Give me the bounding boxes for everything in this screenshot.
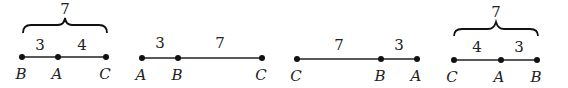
brace-icon bbox=[454, 22, 538, 36]
total-length-label: 7 bbox=[491, 3, 501, 21]
segment-length-label: 3 bbox=[514, 38, 524, 56]
segment-length-label: 3 bbox=[35, 36, 45, 54]
point-dot bbox=[19, 54, 25, 60]
brace-icon bbox=[23, 18, 107, 33]
point-dot bbox=[534, 57, 540, 63]
segment-length-label: 4 bbox=[77, 36, 87, 54]
panel-4: 7 4 3 C A B bbox=[446, 3, 541, 86]
point-dot bbox=[103, 54, 109, 60]
segment-length-label: 3 bbox=[394, 36, 404, 54]
point-label: C bbox=[99, 65, 111, 83]
point-dot bbox=[294, 56, 300, 62]
point-dot bbox=[414, 56, 420, 62]
point-dot bbox=[451, 57, 457, 63]
panel-2: 3 7 A B C bbox=[134, 34, 268, 84]
total-length-label: 7 bbox=[60, 0, 70, 18]
point-dot bbox=[55, 54, 61, 60]
number-line-diagram: 7 3 4 B A C 3 7 A B C 7 3 C B A 7 4 bbox=[0, 0, 568, 88]
point-label: B bbox=[529, 68, 541, 86]
point-dot bbox=[139, 55, 145, 61]
panel-1: 7 3 4 B A C bbox=[14, 0, 111, 83]
point-label: A bbox=[409, 67, 422, 85]
point-label: B bbox=[170, 66, 182, 84]
segment-length-label: 7 bbox=[215, 34, 225, 52]
point-dot bbox=[378, 56, 384, 62]
point-label: C bbox=[446, 68, 458, 86]
segment-length-label: 4 bbox=[472, 38, 482, 56]
point-dot bbox=[498, 57, 504, 63]
point-label: B bbox=[373, 67, 385, 85]
point-label: A bbox=[492, 68, 505, 86]
point-label: A bbox=[134, 66, 147, 84]
point-label: C bbox=[255, 66, 267, 84]
point-label: C bbox=[290, 67, 302, 85]
point-label: A bbox=[50, 65, 63, 83]
point-dot bbox=[175, 55, 181, 61]
point-label: B bbox=[14, 65, 26, 83]
segment-length-label: 3 bbox=[155, 34, 165, 52]
panel-3: 7 3 C B A bbox=[290, 36, 421, 85]
segment-length-label: 7 bbox=[334, 36, 344, 54]
point-dot bbox=[259, 55, 265, 61]
